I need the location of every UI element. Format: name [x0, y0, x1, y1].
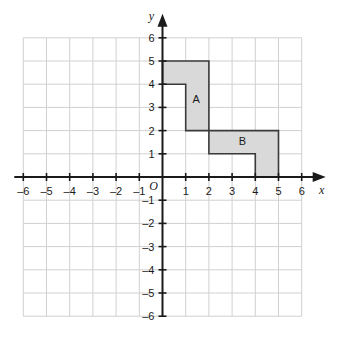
y-axis-arrowhead	[158, 14, 168, 27]
y-tick-label: 6	[148, 32, 154, 44]
x-tick-label: –5	[40, 185, 52, 197]
x-axis-arrowhead	[313, 172, 326, 182]
shapes-group	[163, 61, 279, 177]
shape-label-a: A	[192, 93, 200, 105]
y-tick-label: –2	[142, 217, 154, 229]
y-tick-label: 2	[148, 125, 154, 137]
y-tick-label: –6	[142, 310, 154, 322]
x-tick-label: –4	[64, 185, 76, 197]
shape-label-b: B	[239, 135, 246, 147]
y-tick-label: 1	[148, 148, 154, 160]
y-tick-label: –4	[142, 264, 154, 276]
x-tick-label: –6	[17, 185, 29, 197]
x-tick-label: 1	[183, 185, 189, 197]
y-axis-label: y	[148, 9, 155, 23]
y-tick-label: –1	[142, 194, 154, 206]
y-tick-label: 5	[148, 55, 154, 67]
x-axis-label: x	[318, 183, 325, 197]
x-tick-label: 4	[252, 185, 258, 197]
y-tick-label: 3	[148, 101, 154, 113]
y-tick-label: 4	[148, 78, 154, 90]
x-tick-label: 6	[299, 185, 305, 197]
x-tick-label: 3	[229, 185, 235, 197]
x-tick-label: –3	[87, 185, 99, 197]
x-tick-label: –2	[110, 185, 122, 197]
origin-label: O	[149, 179, 158, 193]
shape-a	[163, 61, 209, 131]
x-tick-label: 2	[206, 185, 212, 197]
coordinate-grid-figure: –6–5–4–3–2–1123456654321–1–2–3–4–5–6OxyA…	[0, 0, 339, 342]
y-tick-label: –3	[142, 241, 154, 253]
y-tick-label: –5	[142, 287, 154, 299]
x-tick-label: 5	[275, 185, 281, 197]
coordinate-plane-svg: –6–5–4–3–2–1123456654321–1–2–3–4–5–6OxyA…	[0, 0, 339, 342]
